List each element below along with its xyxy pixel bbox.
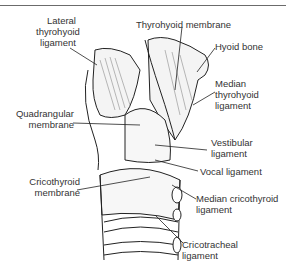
label-median-thyrohyoid-ligament: Median thyrohyoid ligament — [215, 78, 259, 111]
label-median-cricothyroid-ligament: Median cricothyroid ligament — [196, 193, 278, 215]
label-cricotracheal-ligament: Cricotracheal ligament — [182, 239, 238, 261]
label-thyrohyoid-membrane: Thyrohyoid membrane — [136, 19, 231, 30]
label-lateral-thyrohyoid-ligament: Lateral thyrohyoid ligament — [36, 15, 76, 48]
label-vocal-ligament: Vocal ligament — [200, 166, 262, 177]
label-vestibular-ligament: Vestibular ligament — [211, 137, 253, 159]
label-cricothyroid-membrane: Cricothyroid membrane — [28, 176, 80, 198]
label-quadrangular-membrane: Quadrangular membrane — [14, 108, 74, 130]
label-hyoid-bone: Hyoid bone — [215, 41, 263, 52]
